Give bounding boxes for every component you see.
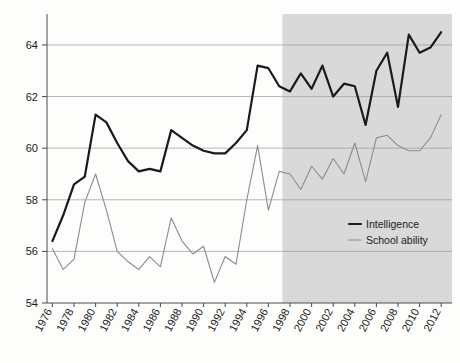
y-tick-label: 54 <box>26 297 38 309</box>
x-tick-group: 2002 <box>313 306 335 333</box>
x-tick-group: 1982 <box>97 306 119 333</box>
x-tick-label: 2010 <box>399 306 421 333</box>
x-tick-group: 1988 <box>162 306 184 333</box>
x-tick-group: 2000 <box>291 306 313 333</box>
x-tick-group: 1990 <box>183 306 205 333</box>
x-tick-group: 1984 <box>118 306 140 333</box>
x-tick-group: 1986 <box>140 306 162 333</box>
y-tick-label: 56 <box>26 245 38 257</box>
y-tick-label: 58 <box>26 194 38 206</box>
x-tick-group: 1980 <box>75 306 97 333</box>
x-tick-label: 1992 <box>205 306 227 333</box>
x-tick-label: 2008 <box>378 306 400 333</box>
x-tick-group: 2010 <box>399 306 421 333</box>
x-tick-label: 1980 <box>75 306 97 333</box>
x-tick-group: 2012 <box>421 306 443 333</box>
x-tick-label: 1976 <box>32 306 54 333</box>
x-tick-group: 1976 <box>32 306 54 333</box>
x-tick-label: 1996 <box>248 306 270 333</box>
x-tick-label: 2012 <box>421 306 443 333</box>
x-tick-group: 1978 <box>54 306 76 333</box>
chart-figure: 5456586062641976197819801982198419861988… <box>0 0 460 363</box>
x-tick-group: 2004 <box>334 306 356 333</box>
x-tick-label: 2006 <box>356 306 378 333</box>
legend-label-intelligence: Intelligence <box>366 218 419 230</box>
x-tick-group: 1992 <box>205 306 227 333</box>
x-tick-label: 2002 <box>313 306 335 333</box>
x-tick-label: 1978 <box>54 306 76 333</box>
x-tick-label: 1982 <box>97 306 119 333</box>
x-tick-group: 1996 <box>248 306 270 333</box>
legend-label-school-ability: School ability <box>366 234 429 246</box>
x-tick-label: 1984 <box>118 306 140 333</box>
shaded-region <box>282 14 452 303</box>
x-tick-label: 1988 <box>162 306 184 333</box>
chart-svg: 5456586062641976197819801982198419861988… <box>0 0 460 363</box>
x-tick-group: 1998 <box>270 306 292 333</box>
x-tick-group: 1994 <box>226 306 248 333</box>
x-tick-label: 1990 <box>183 306 205 333</box>
x-tick-label: 1986 <box>140 306 162 333</box>
y-tick-label: 64 <box>26 39 38 51</box>
x-tick-group: 2008 <box>378 306 400 333</box>
y-tick-label: 60 <box>26 142 38 154</box>
x-tick-label: 1994 <box>226 306 248 333</box>
x-tick-group: 2006 <box>356 306 378 333</box>
x-tick-label: 1998 <box>270 306 292 333</box>
y-tick-label: 62 <box>26 91 38 103</box>
x-tick-label: 2004 <box>334 306 356 333</box>
x-tick-label: 2000 <box>291 306 313 333</box>
chart-plot-area: 5456586062641976197819801982198419861988… <box>0 0 460 363</box>
